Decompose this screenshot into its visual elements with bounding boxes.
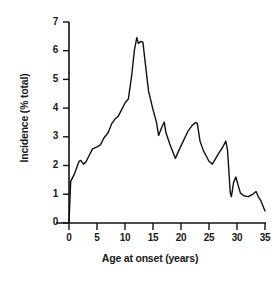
x-tick-label-0: 0 (61, 232, 77, 243)
x-tick-label-5: 5 (89, 232, 105, 243)
x-tick-label-25: 25 (201, 232, 217, 243)
y-axis-ticks (63, 22, 69, 223)
y-axis-title: Incidence (% total) (18, 38, 30, 198)
y-tick-label-2: 2 (44, 159, 58, 170)
x-axis-ticks (69, 223, 265, 230)
x-axis-title: Age at onset (years) (50, 252, 250, 264)
x-tick-label-30: 30 (229, 232, 245, 243)
x-tick-label-15: 15 (145, 232, 161, 243)
incidence-data-line (69, 38, 265, 223)
y-tick-label-1: 1 (44, 188, 58, 199)
x-tick-label-20: 20 (173, 232, 189, 243)
y-tick-label-4: 4 (44, 102, 58, 113)
x-tick-label-35: 35 (257, 232, 273, 243)
y-tick-label-7: 7 (44, 16, 58, 27)
y-tick-label-5: 5 (44, 73, 58, 84)
y-tick-label-0: 0 (44, 216, 58, 227)
chart-figure: 7 6 5 4 3 2 1 0 0 5 10 15 20 25 30 35 In… (0, 0, 278, 282)
y-tick-label-3: 3 (44, 130, 58, 141)
y-tick-label-6: 6 (44, 44, 58, 55)
x-tick-label-10: 10 (117, 232, 133, 243)
